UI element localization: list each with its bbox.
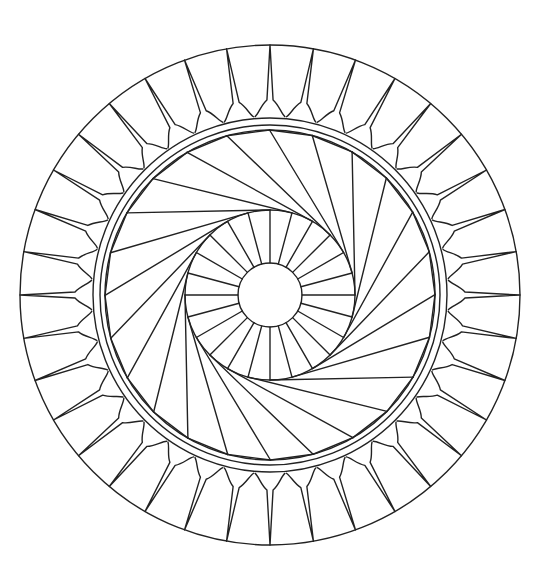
mandala-artwork [0, 0, 542, 572]
mandala-svg [0, 0, 542, 572]
